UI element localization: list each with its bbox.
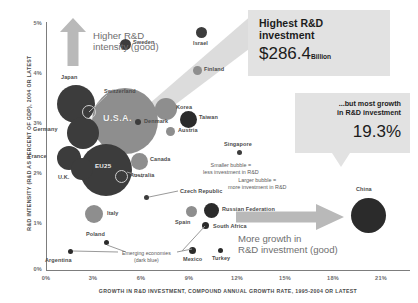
arrow-up-label: Higher R&D intensity (good) (93, 30, 159, 52)
callout-invest-heading: Highest R&D investment (259, 18, 390, 41)
label-italy: Italy (107, 210, 119, 216)
callout-invest-line2: investment (259, 29, 314, 41)
bubble-israel[interactable] (196, 27, 207, 38)
callout-growth-value: 19.3% (295, 122, 401, 141)
bubble-china[interactable] (351, 198, 386, 233)
x-tick-15: 15% (270, 275, 300, 281)
label-germany: Germany (33, 126, 58, 132)
note-smaller-bubble: Smaller bubble = less investment in R&D (203, 162, 259, 175)
label-finland: Finland (204, 66, 224, 72)
note-emerging-line1: Emerging economies (122, 250, 171, 256)
note-larger-line1: Larger bubble = (238, 177, 276, 183)
y-tick-4: 4% (22, 70, 42, 76)
arrow-up-icon (60, 18, 86, 66)
callout-invest-unit: Billion (311, 53, 331, 60)
bubble-mexico[interactable] (189, 247, 196, 254)
callout-highest-investment: Highest R&D investment $286.4Billion (248, 10, 390, 76)
label-china: China (356, 186, 372, 192)
label-denmark: Denmark (144, 118, 168, 124)
x-tick-12: 12% (222, 275, 252, 281)
label-korea: Korea (176, 104, 192, 110)
bubble-switzerland[interactable] (82, 105, 96, 119)
callout-pointer-growth (332, 153, 350, 167)
label-mexico: Mexico (183, 256, 202, 262)
label-singapore: Singapore (224, 141, 252, 147)
x-tick-21: 21% (366, 275, 396, 281)
bubble-italy[interactable] (85, 205, 103, 223)
arrow-right-line1: More growth in (238, 233, 301, 244)
y-tick-0: 0% (22, 266, 42, 272)
bubble-czech-republic[interactable] (144, 195, 149, 200)
note-larger-bubble: Larger bubble = more investment in R&D (228, 177, 286, 190)
bubble-denmark[interactable] (135, 119, 141, 125)
bubble-argentina[interactable] (68, 249, 73, 254)
arrow-up-line2: intensity (good) (93, 41, 159, 52)
x-tick-6: 6% (126, 275, 156, 281)
x-tick-9: 9% (174, 275, 204, 281)
arrow-right-icon (236, 204, 344, 230)
callout-invest-value-row: $286.4Billion (259, 44, 390, 66)
label-israel: Israel (193, 40, 208, 46)
note-smaller-line2: less investment in R&D (203, 169, 259, 175)
bubble-poland[interactable] (104, 240, 109, 245)
note-larger-line2: more investment in R&D (228, 184, 286, 190)
bubble-austria[interactable] (166, 127, 175, 136)
x-tick-18: 18% (318, 275, 348, 281)
label-turkey: Turkey (212, 255, 230, 261)
label-usa: U.S.A. (103, 113, 132, 123)
callout-invest-value: $286.4 (259, 44, 311, 63)
bubble-spain[interactable] (186, 206, 197, 217)
y-axis-title: R&D INTENSITY (R&D AS PERCENT OF GDP), 2… (26, 36, 32, 250)
arrow-up-line1: Higher R&D (93, 30, 144, 41)
bubble-russian-federation[interactable] (204, 203, 219, 218)
bubble-canada[interactable] (131, 153, 148, 170)
callout-growth-line2: in R&D investment (337, 108, 401, 117)
x-tick-3: 3% (78, 275, 108, 281)
note-emerging-economies: Emerging economies (dark blue) (122, 250, 171, 263)
bubble-singapore[interactable] (237, 150, 242, 155)
label-austria: Austria (178, 127, 198, 133)
y-tick-2: 2% (22, 170, 42, 176)
callout-invest-line1: Highest R&D (259, 17, 323, 29)
y-tick-5: 5% (22, 20, 42, 26)
callout-most-growth: ...but most growth in R&D investment 19.… (295, 93, 410, 153)
y-tick-1: 1% (22, 220, 42, 226)
bubble-south-africa[interactable] (202, 222, 209, 229)
x-axis-line (46, 270, 410, 271)
bubble-uk[interactable] (71, 158, 93, 180)
arrow-right-label: More growth in R&D investment (good) (238, 233, 338, 255)
label-spain: Spain (175, 219, 190, 225)
bubble-turkey[interactable] (218, 248, 223, 253)
note-emerging-line2: (dark blue) (134, 257, 159, 263)
bubble-korea[interactable] (155, 98, 177, 120)
label-taiwan: Taiwan (199, 114, 218, 120)
chart-canvas: 5% 4% 3% 2% 1% 0% 0% 3% 6% 9% 12% 15% 18… (0, 0, 418, 303)
arrow-right-line2: R&D investment (good) (238, 244, 338, 255)
label-switzerland: Switzerland (104, 88, 136, 94)
label-argentina: Argentina (45, 257, 72, 263)
bubble-australia[interactable] (115, 170, 128, 183)
x-axis-title: GROWTH IN R&D INVESTMENT, COMPOUND ANNUA… (46, 288, 410, 294)
callout-growth-subheading: ...but most growth in R&D investment (295, 100, 401, 117)
x-tick-0: 0% (31, 275, 61, 281)
bubble-taiwan[interactable] (180, 111, 197, 128)
label-canada: Canada (150, 156, 170, 162)
label-australia: Australia (130, 172, 154, 178)
y-axis-line (46, 22, 47, 270)
label-poland: Poland (86, 231, 105, 237)
bubble-finland[interactable] (193, 66, 202, 75)
label-czech-republic: Czech Republic (180, 188, 222, 194)
bubble-germany[interactable] (67, 117, 99, 149)
label-eu25: EU25 (95, 162, 111, 169)
label-japan: Japan (61, 74, 77, 80)
label-france: France (28, 153, 47, 159)
note-smaller-line1: Smaller bubble = (211, 162, 252, 168)
label-uk: U.K. (58, 174, 69, 180)
